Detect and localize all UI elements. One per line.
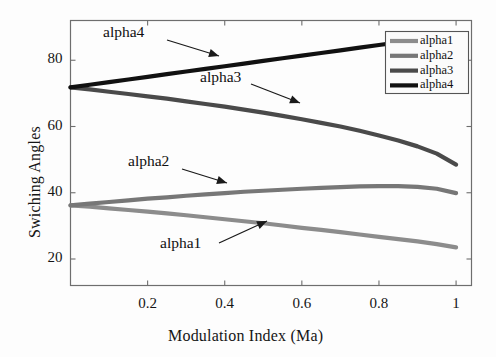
legend-label-alpha4: alpha4 (420, 77, 453, 92)
legend-label-alpha3: alpha3 (420, 63, 453, 78)
y-tick-label: 20 (19, 249, 63, 266)
legend-label-alpha2: alpha2 (420, 48, 453, 63)
annotation-arrow-head (208, 49, 219, 57)
annotation-label: alpha2 (128, 152, 169, 170)
legend-label-alpha1: alpha1 (420, 33, 453, 48)
annotation-label: alpha1 (160, 234, 201, 252)
annotation-arrow-head (289, 95, 300, 103)
x-tick-label: 0.4 (200, 295, 250, 312)
y-tick-label: 40 (19, 183, 63, 200)
x-axis-label: Modulation Index (Ma) (168, 327, 323, 345)
x-tick-label: 0.6 (277, 295, 327, 312)
annotation-arrow-head (216, 176, 227, 184)
annotation-label: alpha3 (200, 68, 241, 86)
x-tick-label: 1 (431, 295, 481, 312)
y-tick-label: 60 (19, 117, 63, 134)
figure-container: Swiching Angles Modulation Index (Ma) 0.… (0, 0, 496, 357)
series-line-alpha1 (71, 205, 457, 247)
x-tick-label: 0.8 (354, 295, 404, 312)
y-tick-label: 80 (19, 50, 63, 67)
annotation-label: alpha4 (103, 23, 144, 41)
x-tick-label: 0.2 (123, 295, 173, 312)
series-line-alpha2 (71, 186, 457, 205)
